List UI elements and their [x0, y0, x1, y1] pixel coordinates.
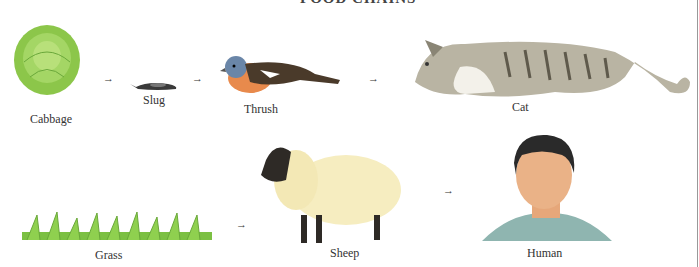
label-sheep: Sheep — [330, 246, 359, 261]
cat-illustration — [405, 22, 695, 102]
arrow-icon: → — [368, 72, 379, 84]
human-illustration — [482, 133, 612, 241]
cabbage-illustration — [12, 22, 82, 97]
label-human: Human — [527, 246, 562, 261]
diagram-title: FOOD CHAINS — [300, 0, 416, 7]
label-grass: Grass — [95, 248, 122, 263]
slug-illustration — [128, 78, 180, 92]
arrow-icon: → — [103, 72, 114, 84]
grass-illustration — [22, 210, 212, 242]
label-cat: Cat — [512, 100, 529, 115]
arrow-icon: → — [236, 218, 247, 230]
thrush-illustration — [220, 52, 345, 97]
label-slug: Slug — [143, 93, 165, 108]
arrow-icon: → — [443, 184, 454, 196]
label-thrush: Thrush — [244, 102, 278, 117]
label-cabbage: Cabbage — [30, 112, 72, 127]
sheep-illustration — [256, 140, 406, 245]
arrow-icon: → — [192, 72, 203, 84]
page-edge — [697, 0, 698, 267]
